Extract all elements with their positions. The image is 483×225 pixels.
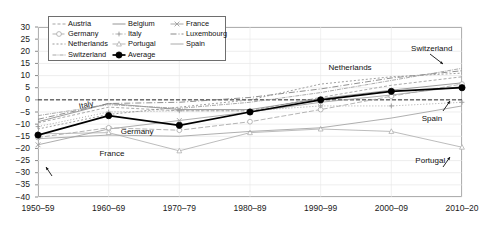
x-tick-label: 1980–89 bbox=[219, 203, 281, 213]
legend-item-luxembourg[interactable]: Luxembourg bbox=[170, 30, 228, 38]
y-tick-label: 30 bbox=[2, 23, 30, 32]
y-tick-label: −40 bbox=[2, 193, 30, 202]
legend-swatch-switzerland-icon bbox=[52, 51, 66, 59]
legend-label: Portugal bbox=[128, 40, 156, 48]
legend-item-france[interactable]: France bbox=[170, 20, 228, 28]
legend-label: France bbox=[186, 20, 209, 28]
x-tick-label: 1950–59 bbox=[7, 203, 69, 213]
annotation-switzerland: Switzerland bbox=[411, 44, 452, 53]
annotation-portugal: Portugal bbox=[415, 156, 445, 165]
y-tick-marks bbox=[35, 27, 38, 197]
legend-swatch-france-icon bbox=[170, 20, 184, 28]
legend-item-portugal[interactable]: Portugal bbox=[112, 40, 170, 48]
legend-item-austria[interactable]: Austria bbox=[52, 20, 112, 28]
legend-item-spain[interactable]: Spain bbox=[170, 40, 228, 48]
legend-grid: AustriaBelgiumFranceGermanyItalyLuxembou… bbox=[52, 19, 222, 60]
annotation-spain: Spain bbox=[422, 114, 442, 123]
legend-swatch-netherlands-icon bbox=[52, 40, 66, 48]
legend-swatch-germany-icon bbox=[52, 30, 66, 38]
legend-swatch-spain-icon bbox=[170, 40, 184, 48]
annotation-germany: Germany bbox=[121, 127, 154, 136]
legend-item-germany[interactable]: Germany bbox=[52, 30, 112, 38]
legend-swatch-portugal-icon bbox=[112, 40, 126, 48]
legend-item-average[interactable]: Average bbox=[112, 51, 170, 59]
annotation-netherlands: Netherlands bbox=[328, 63, 371, 72]
legend-label: Germany bbox=[68, 30, 98, 38]
x-tick-label: 1970–79 bbox=[148, 203, 210, 213]
y-tick-label: −35 bbox=[2, 180, 30, 189]
y-tick-label: 10 bbox=[2, 71, 30, 80]
y-tick-label: 25 bbox=[2, 35, 30, 44]
legend-swatch-luxembourg-icon bbox=[170, 30, 184, 38]
y-tick-label: 15 bbox=[2, 59, 30, 68]
y-tick-label: −5 bbox=[2, 108, 30, 117]
legend-item-netherlands[interactable]: Netherlands bbox=[52, 40, 112, 48]
legend-swatch-austria-icon bbox=[52, 20, 66, 28]
y-tick-label: −30 bbox=[2, 168, 30, 177]
legend-label: Average bbox=[128, 51, 155, 59]
x-tick-label: 1960–69 bbox=[78, 203, 140, 213]
chart-legend: AustriaBelgiumFranceGermanyItalyLuxembou… bbox=[48, 16, 226, 61]
y-tick-label: −20 bbox=[2, 144, 30, 153]
y-tick-label: 20 bbox=[2, 47, 30, 56]
legend-swatch-belgium-icon bbox=[112, 20, 126, 28]
y-tick-label: −10 bbox=[2, 120, 30, 129]
x-tick-label: 2000–09 bbox=[360, 203, 422, 213]
legend-swatch-italy-icon bbox=[112, 30, 126, 38]
legend-label: Austria bbox=[68, 20, 91, 28]
legend-swatch-average-icon bbox=[112, 51, 126, 59]
legend-label: Belgium bbox=[128, 20, 155, 28]
legend-item-italy[interactable]: Italy bbox=[112, 30, 170, 38]
legend-label: Netherlands bbox=[68, 40, 108, 48]
legend-item-belgium[interactable]: Belgium bbox=[112, 20, 170, 28]
legend-item-switzerland[interactable]: Switzerland bbox=[52, 51, 112, 59]
y-tick-label: 5 bbox=[2, 83, 30, 92]
legend-label: Spain bbox=[186, 40, 205, 48]
legend-label: Switzerland bbox=[68, 51, 106, 59]
legend-label: Italy bbox=[128, 30, 142, 38]
legend-label: Luxembourg bbox=[186, 30, 227, 38]
y-tick-label: −15 bbox=[2, 132, 30, 141]
x-tick-label: 1990–99 bbox=[290, 203, 352, 213]
x-tick-label: 2010–20 bbox=[431, 203, 483, 213]
y-tick-label: 0 bbox=[2, 95, 30, 104]
y-tick-label: −25 bbox=[2, 156, 30, 165]
annotation-france: France bbox=[99, 149, 124, 158]
